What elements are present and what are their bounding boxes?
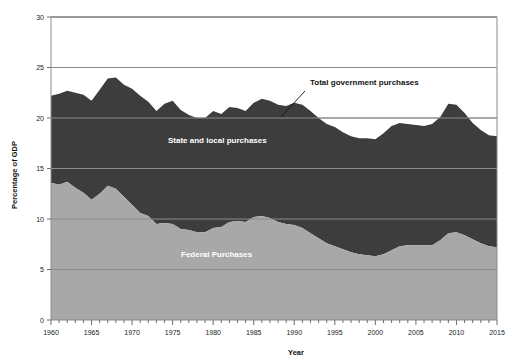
- y-tick-label-30: 30: [36, 14, 44, 21]
- x-tick-label-1980: 1980: [205, 329, 221, 336]
- x-tick-label-1990: 1990: [286, 329, 302, 336]
- y-tick-label-15: 15: [36, 165, 44, 172]
- chart-container: 051015202530 196019651970197519801985199…: [0, 0, 519, 364]
- x-tick-label-2005: 2005: [408, 329, 424, 336]
- y-axis-title: Percentage of GDP: [10, 141, 19, 209]
- x-tick-label-1975: 1975: [165, 329, 181, 336]
- y-tick-label-20: 20: [36, 115, 44, 122]
- x-tick-label-2010: 2010: [449, 329, 465, 336]
- stacked-area-chart: 051015202530 196019651970197519801985199…: [0, 0, 519, 364]
- y-tick-label-0: 0: [40, 317, 44, 324]
- x-tick-label-1960: 1960: [43, 329, 59, 336]
- x-tick-label-1995: 1995: [327, 329, 343, 336]
- annotation-total-government-purchases: Total government purchases: [310, 78, 419, 87]
- x-tick-label-2015: 2015: [489, 329, 505, 336]
- annotation-federal-purchases: Federal Purchases: [181, 250, 253, 259]
- x-axis-title: Year: [288, 348, 304, 357]
- y-tick-label-25: 25: [36, 64, 44, 71]
- y-tick-label-10: 10: [36, 216, 44, 223]
- x-tick-label-1985: 1985: [246, 329, 262, 336]
- annotation-state-and-local-purchases: State and local purchases: [168, 136, 267, 145]
- x-tick-label-1970: 1970: [124, 329, 140, 336]
- x-tick-label-1965: 1965: [84, 329, 100, 336]
- x-tick-label-2000: 2000: [368, 329, 384, 336]
- y-tick-label-5: 5: [40, 266, 44, 273]
